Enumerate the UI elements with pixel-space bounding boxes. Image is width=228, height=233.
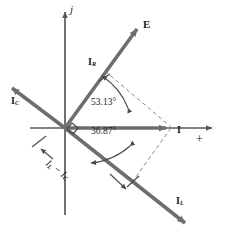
label-current-IL: IL (176, 196, 184, 207)
phasor-E (65, 29, 137, 128)
label-current-IL-subscript: L (180, 199, 184, 206)
label-voltage-E: E (143, 19, 150, 30)
phasor-IC (12, 88, 65, 128)
label-angle-37: 36.87° (91, 127, 116, 137)
diagram-canvas (0, 0, 228, 233)
label-current-IC-subscript: C (15, 99, 19, 106)
label-angle-53: 53.13° (91, 98, 116, 108)
label-current-IR-subscript: R (92, 60, 96, 67)
label-current-I-total: I (177, 125, 181, 135)
phasor-diagram-figure: E j IR IC IL I + 53.13° 36.87° IL − IC (0, 0, 228, 233)
label-axis-imaginary: j (70, 4, 73, 15)
phasor-IL (65, 128, 185, 223)
label-axis-real-positive: + (196, 133, 203, 145)
label-current-IC: IC (11, 96, 19, 107)
label-current-IR: IR (88, 57, 96, 68)
